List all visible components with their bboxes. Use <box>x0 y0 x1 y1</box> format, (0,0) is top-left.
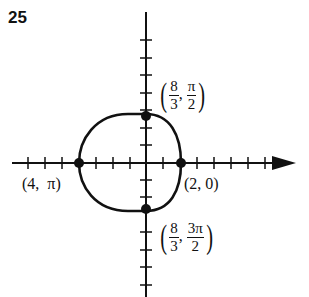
label-top-point: (83, π2) <box>158 78 208 112</box>
label-left-point: (4, π) <box>22 175 61 193</box>
label-right-point: (2, 0) <box>184 175 219 193</box>
figure: 25 <box>0 0 309 297</box>
polar-diagram <box>0 0 309 297</box>
label-bottom-point: (83, 3π2) <box>158 220 215 254</box>
